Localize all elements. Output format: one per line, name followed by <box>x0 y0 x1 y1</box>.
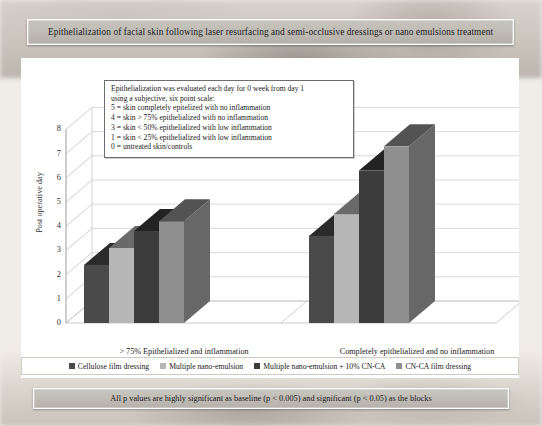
x-axis-category-label: Completely epithelialized and no inflamm… <box>307 347 527 356</box>
y-tick-label: 2 <box>47 271 61 279</box>
legend-label: Multiple nano-emulsion + 10% CN-CA <box>263 362 385 371</box>
y-tick-label: 0 <box>47 319 61 327</box>
y-tick-label: 3 <box>47 246 61 254</box>
slide-title-band: Epithelialization of facial skin followi… <box>27 19 514 45</box>
legend-label: Multiple nano-emulsion <box>169 362 243 371</box>
callout-line: Epithelialization was evaluated each day… <box>111 84 348 94</box>
y-tick-label: 4 <box>47 222 61 230</box>
callout-line: 4 = skin > 75% epithelialized with no in… <box>111 113 348 123</box>
legend-swatch-icon <box>160 363 166 369</box>
y-tick-label: 1 <box>47 295 61 303</box>
chart-card: Post operative day 012345678 > 75% Epith… <box>21 58 519 378</box>
y-tick-label: 8 <box>47 125 61 133</box>
significance-caption: All p values are highly significant as b… <box>110 394 431 403</box>
y-tick-label: 7 <box>47 150 61 158</box>
y-axis-title: Post operative day <box>35 138 44 268</box>
legend-swatch-icon <box>396 363 402 369</box>
callout-line: 5 = skin completely epitelized with no i… <box>111 103 348 113</box>
y-tick-label: 5 <box>47 198 61 206</box>
y-tick-label: 6 <box>47 174 61 182</box>
legend-item[interactable]: Multiple nano-emulsion <box>160 362 243 371</box>
legend-item[interactable]: Multiple nano-emulsion + 10% CN-CA <box>254 362 385 371</box>
legend-swatch-icon <box>69 363 75 369</box>
callout-line: 3 = skin < 50% epithelialized with low i… <box>111 123 348 133</box>
methodology-callout: Epithelialization was evaluated each day… <box>104 80 354 158</box>
callout-line: 1 = skin < 25% epithelialized with low i… <box>111 133 348 143</box>
legend-item[interactable]: CN-CA film dressing <box>396 362 471 371</box>
significance-caption-band: All p values are highly significant as b… <box>33 388 509 409</box>
legend-swatch-icon <box>254 363 260 369</box>
slide-title: Epithelialization of facial skin followi… <box>48 27 493 37</box>
legend-item[interactable]: Cellulose film dressing <box>69 362 149 371</box>
legend-label: CN-CA film dressing <box>405 362 471 371</box>
slide-canvas: Epithelialization of facial skin followi… <box>0 0 542 426</box>
x-axis-category-label: > 75% Epithelialized and inflammation <box>84 347 284 356</box>
callout-line: using a subjective, six point scale: <box>111 94 348 104</box>
legend-label: Cellulose film dressing <box>78 362 149 371</box>
callout-line: 0 = untreated skin/controls <box>111 142 348 152</box>
chart-legend: Cellulose film dressingMultiple nano-emu… <box>21 357 519 375</box>
